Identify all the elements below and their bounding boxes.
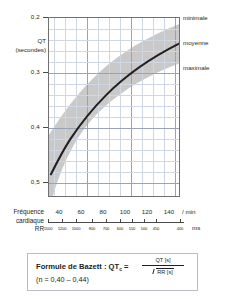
rr-tick xyxy=(132,219,133,222)
y-tick-label-1: 0,3 xyxy=(18,68,40,75)
rr-tick xyxy=(156,219,157,222)
formula-norm-range: (n = 0,40 – 0,44) xyxy=(36,275,89,284)
y-tick-label-3: 0,5 xyxy=(18,178,40,185)
formula-title-row: Formule de Bazett : QTc = xyxy=(36,262,128,271)
legend-item-minimale: minimale xyxy=(183,14,208,21)
rr-tick-label-8: 450 xyxy=(147,226,165,231)
formula-fraction: QT [s] RR [s] xyxy=(136,257,190,277)
x-tick-label-0: 40 xyxy=(49,208,69,215)
rr-tick xyxy=(180,219,181,222)
x-tick-label-3: 100 xyxy=(115,208,135,215)
fraction-bar xyxy=(142,265,184,266)
x-axis-caption-line1: Fréquence xyxy=(0,208,44,216)
y-axis-title-line2: (secondes) xyxy=(0,46,46,55)
formula-equals: = xyxy=(124,262,128,271)
mean-qt-curve xyxy=(49,18,179,196)
y-tick-mark xyxy=(43,17,48,18)
y-tick-label-2: 0,4 xyxy=(18,123,40,130)
rr-tick xyxy=(92,219,93,222)
y-tick-mark xyxy=(43,72,48,73)
qtc-symbol: QTc xyxy=(109,262,124,271)
formula-title: Formule de Bazett : xyxy=(36,262,106,271)
rr-tick xyxy=(120,219,121,222)
x-tick-label-2: 80 xyxy=(93,208,113,215)
rr-tick xyxy=(76,219,77,222)
rr-tick xyxy=(144,219,145,222)
y-tick-mark xyxy=(43,182,48,183)
x-tick-label-1: 60 xyxy=(71,208,91,215)
rr-tick xyxy=(106,219,107,222)
rr-tick-label-9: 400 xyxy=(171,226,189,231)
square-root-icon: RR [s] xyxy=(153,267,173,277)
x-tick-label-4: 120 xyxy=(137,208,157,215)
rr-tick xyxy=(48,219,49,222)
y-tick-mark xyxy=(43,127,48,128)
qt-rr-nomogram-figure: QT (secondes) 0,2 0,3 0,4 0,5 minimale m… xyxy=(0,0,225,299)
rr-axis-unit: ms xyxy=(192,224,200,231)
legend-item-moyenne: moyenne xyxy=(183,39,208,46)
formula-denominator: RR [s] xyxy=(157,269,173,275)
rr-axis-name: RR xyxy=(0,225,44,232)
plot-area xyxy=(48,17,180,197)
rr-tick xyxy=(62,219,63,222)
formula-numerator: QT [s] xyxy=(136,257,190,264)
formula-denominator-wrap: RR [s] xyxy=(136,267,190,277)
legend-item-maximale: maximale xyxy=(183,64,209,71)
y-axis-title-line1: QT xyxy=(0,37,46,46)
x-axis-unit: / min xyxy=(182,208,195,215)
rr-axis-line xyxy=(48,222,184,223)
x-tick-label-5: 140 xyxy=(159,208,179,215)
y-tick-label-0: 0,2 xyxy=(18,13,40,20)
bazett-formula-box: Formule de Bazett : QTc = QT [s] RR [s] … xyxy=(27,253,198,291)
